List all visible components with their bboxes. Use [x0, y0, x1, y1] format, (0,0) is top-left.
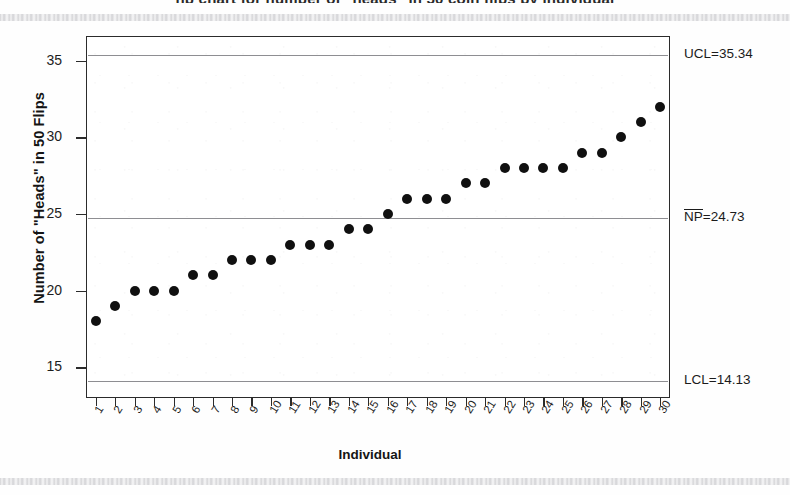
x-tick-label: 5 — [170, 404, 184, 416]
data-point — [461, 178, 471, 188]
y-tick-label: 25 — [22, 205, 62, 221]
y-tick-label: 20 — [22, 282, 62, 298]
scan-noise-overlay — [87, 37, 669, 397]
x-tick-label: 23 — [520, 398, 537, 415]
data-point — [636, 117, 646, 127]
data-point — [305, 240, 315, 250]
np-bar-symbol: NP — [684, 209, 703, 224]
y-tick-mark — [76, 367, 86, 368]
x-tick-label: 3 — [131, 404, 145, 416]
y-tick-mark — [76, 291, 86, 292]
x-tick-label: 14 — [345, 398, 362, 415]
data-point — [149, 286, 159, 296]
x-tick-label: 15 — [364, 398, 381, 415]
scan-artifact-band-top — [0, 14, 790, 21]
x-tick-label: 2 — [111, 404, 125, 416]
x-tick-label: 16 — [384, 398, 401, 415]
y-tick-label: 15 — [22, 358, 62, 374]
x-tick-label: 1 — [92, 404, 106, 416]
data-point — [597, 148, 607, 158]
x-tick-label: 13 — [325, 398, 342, 415]
x-tick-label: 29 — [637, 398, 654, 415]
x-axis-title: Individual — [0, 447, 740, 462]
data-point — [519, 163, 529, 173]
x-tick-label: 17 — [403, 398, 420, 415]
data-point — [285, 240, 295, 250]
data-point — [655, 102, 665, 112]
data-point — [130, 286, 140, 296]
data-point — [441, 194, 451, 204]
x-tick-label: 25 — [559, 398, 576, 415]
limit-label-np-bar: NP=24.73 — [684, 209, 744, 224]
scan-artifact-band-bottom — [0, 478, 790, 485]
np-control-chart: Number of "Heads" in 50 Flips Individual… — [0, 22, 790, 477]
x-tick-label: 12 — [306, 398, 323, 415]
data-point — [402, 194, 412, 204]
scanned-page: np chart for number of "heads" in 50 coi… — [0, 0, 790, 495]
x-tick-label: 28 — [617, 398, 634, 415]
x-tick-label: 21 — [481, 398, 498, 415]
x-tick-label: 11 — [286, 399, 303, 415]
data-point — [227, 255, 237, 265]
data-point — [558, 163, 568, 173]
y-tick-label: 30 — [22, 128, 62, 144]
data-point — [383, 209, 393, 219]
x-tick-label: 22 — [501, 398, 518, 415]
x-tick-label: 26 — [578, 398, 595, 415]
limit-line-ucl — [88, 55, 668, 56]
limit-line-lcl — [88, 381, 668, 382]
x-tick-label: 20 — [462, 398, 479, 415]
limit-label-lcl: LCL=14.13 — [684, 372, 750, 387]
y-tick-mark — [76, 214, 86, 215]
data-point — [208, 270, 218, 280]
data-point — [422, 194, 432, 204]
limit-line-np-bar — [88, 218, 668, 219]
x-tick-label: 18 — [423, 398, 440, 415]
x-tick-label: 7 — [209, 404, 223, 416]
x-tick-label: 24 — [539, 398, 556, 415]
data-point — [500, 163, 510, 173]
x-tick-label: 9 — [247, 404, 261, 416]
limit-label-ucl: UCL=35.34 — [684, 46, 753, 61]
x-tick-label: 4 — [150, 404, 164, 416]
data-point — [577, 148, 587, 158]
y-tick-mark — [76, 61, 86, 62]
x-tick-label: 27 — [598, 398, 615, 415]
data-point — [324, 240, 334, 250]
x-tick-label: 30 — [656, 398, 673, 415]
x-tick-label: 6 — [189, 404, 203, 416]
np-bar-value: =24.73 — [703, 209, 745, 224]
y-tick-mark — [76, 137, 86, 138]
plot-frame — [86, 36, 670, 398]
data-point — [266, 255, 276, 265]
y-tick-label: 35 — [22, 52, 62, 68]
data-point — [91, 316, 101, 326]
x-tick-label: 19 — [442, 398, 459, 415]
data-point — [169, 286, 179, 296]
x-tick-label: 8 — [228, 404, 242, 416]
y-axis-title: Number of "Heads" in 50 Flips — [31, 33, 47, 363]
clipped-page-title: np chart for number of "heads" in 50 coi… — [0, 0, 790, 3]
x-tick-label: 10 — [267, 398, 284, 415]
